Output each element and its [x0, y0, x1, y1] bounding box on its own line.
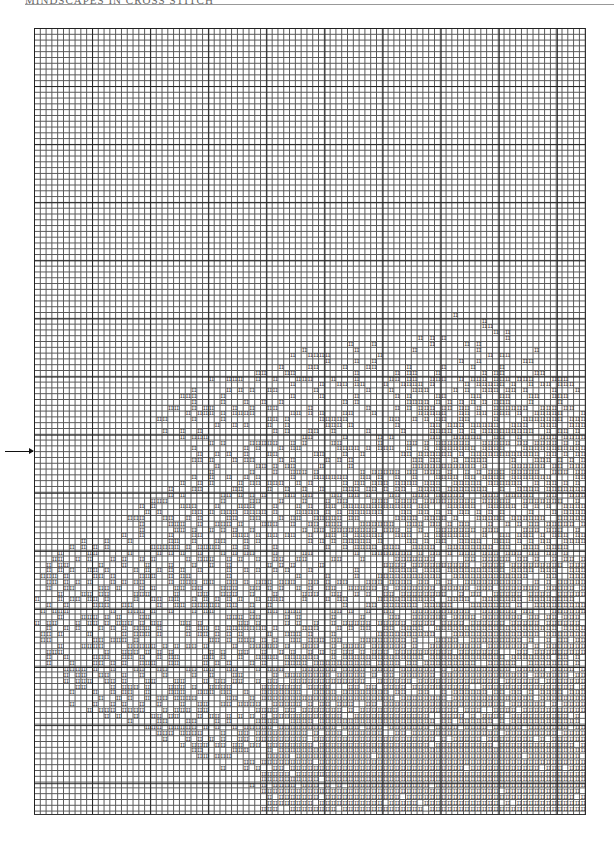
stitch-symbol: II: [237, 597, 243, 603]
stitch-symbol: II: [86, 557, 92, 563]
stitch-symbol: II: [417, 336, 423, 342]
stitch-symbol: II: [307, 411, 313, 417]
stitch-symbol: II: [319, 487, 325, 493]
stitch-symbol: II: [46, 586, 52, 592]
stitch-symbol: II: [197, 714, 203, 720]
stitch-symbol: II: [313, 592, 319, 598]
stitch-symbol: II: [493, 330, 499, 336]
stitch-symbol: II: [168, 493, 174, 499]
stitch-symbol: II: [307, 481, 313, 487]
stitch-symbol: II: [197, 568, 203, 574]
stitch-symbol: II: [63, 609, 69, 615]
stitch-symbol: II: [394, 394, 400, 400]
center-arrow-icon: [5, 451, 33, 452]
stitch-symbol: II: [313, 626, 319, 632]
stitch-symbol: II: [226, 475, 232, 481]
stitch-symbol: II: [179, 481, 185, 487]
stitch-symbol: II: [202, 743, 208, 749]
stitch-symbol: II: [278, 446, 284, 452]
stitch-symbol: II: [336, 609, 342, 615]
stitch-symbol: II: [179, 743, 185, 749]
stitch-symbol: II: [319, 382, 325, 388]
stitch-symbol: II: [255, 539, 261, 545]
stitch-symbol: II: [278, 516, 284, 522]
stitch-symbol: II: [69, 702, 75, 708]
stitch-symbol: II: [354, 574, 360, 580]
stitch-symbol: II: [98, 626, 104, 632]
stitch-symbol: II: [505, 353, 511, 359]
stitch-symbol: II: [255, 499, 261, 505]
stitch-symbol: II: [505, 522, 511, 528]
stitch-symbol: II: [75, 626, 81, 632]
stitch-symbol: II: [336, 557, 342, 563]
stitch-symbol: II: [197, 533, 203, 539]
stitch-symbol: II: [179, 528, 185, 534]
stitch-symbol: II: [272, 377, 278, 383]
stitch-symbol: II: [121, 580, 127, 586]
stitch-symbol: II: [243, 650, 249, 656]
stitch-symbol: II: [272, 388, 278, 394]
stitch-symbol: II: [261, 371, 267, 377]
stitch-symbol: II: [325, 359, 331, 365]
stitch-symbol: II: [272, 406, 278, 412]
stitch-symbol: II: [255, 377, 261, 383]
stitch-symbol: II: [243, 766, 249, 772]
stitch-symbol: II: [412, 348, 418, 354]
stitch-symbol: II: [348, 626, 354, 632]
stitch-symbol: II: [57, 615, 63, 621]
stitch-symbol: II: [156, 632, 162, 638]
stitch-symbol: II: [325, 597, 331, 603]
stitch-symbol: II: [46, 638, 52, 644]
stitch-symbol: II: [86, 679, 92, 685]
stitch-symbol: II: [179, 435, 185, 441]
stitch-symbol: II: [202, 754, 208, 760]
stitch-symbol: II: [412, 441, 418, 447]
stitch-symbol: II: [127, 696, 133, 702]
stitch-symbol: II: [202, 725, 208, 731]
stitch-symbol: II: [569, 406, 575, 412]
stitch-symbol: II: [63, 679, 69, 685]
stitch-symbol: II: [220, 441, 226, 447]
stitch-symbol: II: [232, 423, 238, 429]
stitch-symbol: II: [400, 429, 406, 435]
stitch-symbol: II: [232, 603, 238, 609]
stitch-symbol: II: [505, 336, 511, 342]
stitch-symbol: II: [441, 377, 447, 383]
stitch-symbol: II: [580, 783, 586, 789]
stitch-symbol: II: [214, 452, 220, 458]
stitch-symbol: II: [580, 493, 586, 499]
stitch-symbol: II: [139, 708, 145, 714]
stitch-symbol: II: [377, 353, 383, 359]
stitch-symbol: II: [173, 714, 179, 720]
stitch-symbol: II: [458, 359, 464, 365]
stitch-symbol: II: [237, 679, 243, 685]
stitch-symbol: II: [162, 429, 168, 435]
stitch-symbol: II: [272, 655, 278, 661]
stitch-symbol: II: [144, 650, 150, 656]
stitch-symbol: II: [319, 638, 325, 644]
stitch-symbol: II: [127, 539, 133, 545]
stitch-symbol: II: [162, 696, 168, 702]
stitch-symbol: II: [342, 365, 348, 371]
stitch-symbol: II: [185, 545, 191, 551]
stitch-symbol: II: [266, 487, 272, 493]
stitch-symbol: II: [237, 522, 243, 528]
stitch-symbol: II: [557, 417, 563, 423]
stitch-symbol: II: [354, 493, 360, 499]
stitch-symbol: II: [528, 568, 534, 574]
stitch-symbol: II: [168, 609, 174, 615]
stitch-symbol: II: [470, 557, 476, 563]
stitch-symbol: II: [290, 394, 296, 400]
stitch-symbol: II: [354, 592, 360, 598]
stitch-symbol: II: [307, 377, 313, 383]
stitch-symbol: II: [156, 551, 162, 557]
stitch-symbol: II: [232, 458, 238, 464]
stitch-symbol: II: [400, 487, 406, 493]
stitch-symbol: II: [86, 580, 92, 586]
stitch-symbol: II: [226, 702, 232, 708]
stitch-symbol: II: [75, 557, 81, 563]
stitch-symbol: II: [563, 470, 569, 476]
stitch-symbol: II: [342, 545, 348, 551]
stitch-symbol: II: [69, 568, 75, 574]
stitch-symbol: II: [69, 586, 75, 592]
